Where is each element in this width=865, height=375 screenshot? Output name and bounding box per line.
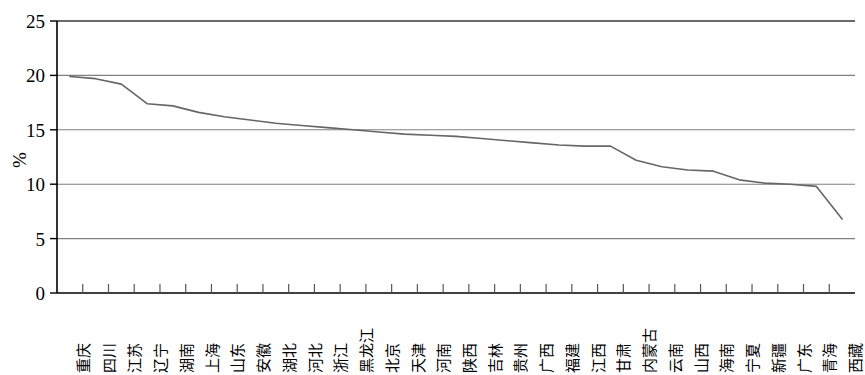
y-axis: 0510152025 [26, 11, 57, 304]
y-axis-tick-label: 20 [26, 65, 45, 86]
y-axis-tick-label: 5 [36, 229, 46, 250]
y-axis-tick-label: 0 [36, 283, 46, 304]
y-axis-tick-label: 10 [26, 174, 45, 195]
plot-background [57, 21, 855, 293]
y-axis-tick-label: 25 [26, 11, 45, 32]
y-axis-title: % [9, 152, 30, 168]
y-axis-tick-label: 15 [26, 120, 45, 141]
